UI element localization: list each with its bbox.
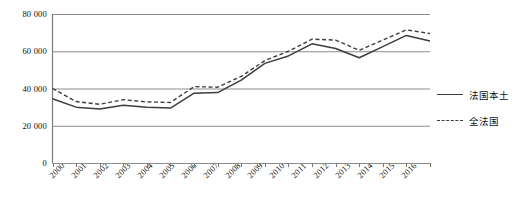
series-line-metropolitan-france (53, 35, 431, 109)
legend: 法国本土 全法国 (437, 82, 527, 134)
legend-label-metropolitan-france: 法国本土 (469, 88, 509, 102)
legend-item-all-france[interactable]: 全法国 (437, 108, 527, 134)
legend-solid-line-icon (437, 90, 463, 100)
legend-dashed-line-icon (437, 116, 463, 126)
series-line-all-france (53, 30, 431, 105)
line-chart: 80 000 60 000 40 000 20 000 0 2000 2001 … (0, 0, 527, 207)
legend-item-metropolitan-france[interactable]: 法国本土 (437, 82, 527, 108)
gridlines (53, 15, 431, 164)
legend-label-all-france: 全法国 (469, 114, 499, 128)
